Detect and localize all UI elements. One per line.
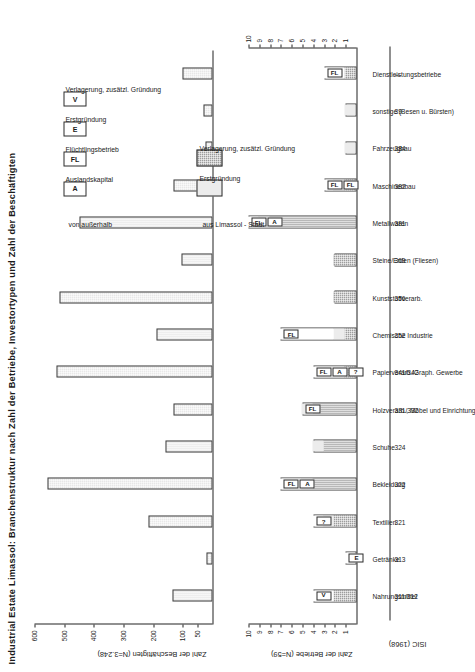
establishments-y-tick-label-right: 7	[276, 28, 283, 42]
employees-y-tick-label: 300	[119, 630, 126, 648]
employees-bar	[59, 291, 212, 303]
category-label: sonstige (Besen u. Bürsten)	[372, 107, 453, 114]
establishments-y-tick	[248, 624, 249, 627]
establishments-y-tick-right	[313, 44, 314, 47]
establishments-bar	[345, 104, 356, 117]
establishments-bar: ?	[313, 514, 356, 527]
segment-verlagerung	[333, 291, 355, 302]
establishments-y-tick	[334, 624, 335, 627]
employees-y-tick-label: 50	[193, 630, 200, 648]
isic-code: 341/342	[394, 368, 418, 375]
investor-marker: FL	[316, 367, 331, 376]
establishments-bar	[313, 440, 356, 453]
establishments-bar: FL	[302, 402, 356, 415]
category-label: Holzverarb., Möbel und Einrichtung	[372, 406, 475, 413]
establishments-y-tick-label: 1	[341, 630, 348, 644]
investor-marker: FL	[327, 180, 342, 189]
establishments-bar: FLA	[280, 477, 356, 490]
investor-marker: E	[348, 554, 363, 563]
legend-marker-box: A	[63, 181, 86, 196]
establishments-y-tick-label-right: 4	[309, 28, 316, 42]
legend-group-title-outside: von außerhalb	[68, 220, 111, 227]
legend-marker-box: FL	[63, 151, 86, 166]
establishments-bar	[334, 290, 356, 303]
establishments-y-tick-label: 9	[255, 630, 262, 644]
isic-code: 311/312	[394, 592, 417, 599]
employees-y-tick-label: 400	[89, 630, 96, 648]
segment-verlagerung	[344, 329, 355, 340]
isic-code: 352	[394, 331, 405, 338]
establishments-y-tick-right	[280, 44, 281, 47]
establishments-bar: FLFL	[324, 178, 356, 191]
employees-y-tick	[93, 624, 94, 627]
legend-group-title-local: aus Limassol - Stadt	[202, 220, 264, 227]
establishments-y-tick-label: 7	[276, 630, 283, 644]
establishments-axis-title: Zahl der Betriebe (N=59)	[270, 649, 352, 658]
segment-verlagerung	[333, 515, 355, 526]
isic-header: ISIC (1968)	[388, 639, 426, 648]
legend-marker-box: E	[63, 121, 86, 136]
establishments-y-tick-right	[291, 44, 292, 47]
establishments-y-tick-label: 10	[244, 630, 251, 644]
employees-y-tick-label: 200	[149, 630, 156, 648]
establishments-y-tick-label: 6	[287, 630, 294, 644]
segment-verlagerung	[344, 67, 355, 78]
legend-label: Erstgründung	[65, 115, 106, 122]
establishments-y-tick-label-right: 3	[320, 28, 327, 42]
establishments-y-tick-label-right: 9	[255, 28, 262, 42]
establishments-y-tick	[280, 624, 281, 627]
employees-bar	[203, 104, 212, 116]
category-label: Schuhe	[372, 443, 394, 450]
employees-bar	[56, 365, 212, 377]
isic-code: 313	[394, 555, 405, 562]
legend-marker-box: V	[63, 91, 86, 106]
isic-code: 322	[394, 480, 405, 487]
establishments-y-tick-right	[345, 44, 346, 47]
employees-y-tick	[182, 624, 183, 627]
employees-bar	[172, 589, 212, 601]
establishments-y-tick	[313, 624, 314, 627]
employees-bar	[165, 440, 212, 452]
isic-code: —	[394, 70, 401, 77]
isic-code: 331/332	[394, 406, 418, 413]
investor-marker: FL	[327, 68, 342, 77]
legend-swatch	[196, 179, 222, 196]
category-label: Maschinenbau	[372, 182, 415, 189]
establishments-y-tick-label: 3	[320, 630, 327, 644]
establishments-bar: V	[313, 589, 356, 602]
employees-bar	[156, 328, 212, 340]
isic-code: 356	[394, 294, 405, 301]
code-separator	[389, 46, 390, 620]
investor-marker: ?	[316, 516, 331, 525]
establishments-y-tick-label: 2	[330, 630, 337, 644]
isic-code: 324	[394, 443, 405, 450]
employees-y-tick	[153, 624, 154, 627]
segment-verlagerung	[333, 254, 355, 265]
establishments-y-tick-label: 5	[298, 630, 305, 644]
establishments-y-tick-right	[324, 44, 325, 47]
employees-bar	[182, 67, 212, 79]
employees-bar	[206, 552, 212, 564]
establishments-y-tick-label: 4	[309, 630, 316, 644]
legend-label: Flüchtlingsbetrieb	[65, 145, 118, 152]
establishments-bar: E	[345, 552, 356, 565]
segment-erstgruendung	[333, 329, 344, 340]
segment-verlagerung	[312, 478, 355, 489]
employees-axis-title: Zahl der Beschäftigten (N=3.248)	[97, 649, 206, 658]
employees-y-tick-label: 100	[178, 630, 185, 648]
legend-label: Auslandskapital	[65, 175, 113, 182]
isic-code: 321	[394, 518, 405, 525]
page-title: Industrial Estate Limassol: Branchenstru…	[6, 152, 16, 664]
establishments-bar: FLA?	[313, 365, 356, 378]
category-label: Dienstleistungsbetriebe	[372, 70, 441, 77]
establishments-y-tick-label-right: 5	[298, 28, 305, 42]
isic-code: 382	[394, 182, 405, 189]
segment-verlagerung	[323, 441, 355, 452]
establishments-bar	[334, 253, 356, 266]
investor-marker: FL	[343, 180, 358, 189]
establishments-bar	[345, 141, 356, 154]
employees-y-tick	[64, 624, 65, 627]
